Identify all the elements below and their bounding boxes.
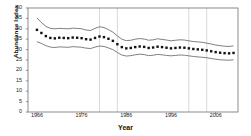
abundance-index-chart: 05101520253035404550 1966197619861996200… [0, 0, 251, 136]
data-point-marker [214, 51, 216, 53]
data-point-marker [165, 47, 167, 49]
x-axis-tick-label: 2006 [196, 113, 236, 118]
data-point-marker [210, 50, 212, 52]
data-point-marker [45, 35, 47, 37]
data-point-marker [192, 48, 194, 50]
data-point-marker [63, 37, 65, 39]
data-point-marker [130, 47, 132, 49]
data-point-marker [174, 47, 176, 49]
data-point-marker [85, 38, 87, 40]
data-point-marker [188, 47, 190, 49]
data-point-marker [147, 47, 149, 49]
data-point-marker [206, 49, 208, 51]
x-axis-tick-label: 1996 [151, 113, 191, 118]
data-point-marker [40, 32, 42, 34]
data-point-marker [134, 46, 136, 48]
data-point-marker [197, 48, 199, 50]
data-point-marker [183, 47, 185, 49]
x-axis-tick-labels: 19661976198619962006 [0, 113, 251, 123]
confidence-limit-line [37, 18, 234, 47]
x-axis-tick-label: 1976 [62, 113, 102, 118]
data-point-marker [116, 43, 118, 45]
y-axis-tick-label: 5 [6, 99, 22, 104]
data-point-marker [179, 46, 181, 48]
data-point-marker [89, 38, 91, 40]
data-point-marker [125, 47, 127, 49]
data-point-marker [143, 46, 145, 48]
x-axis-title: Year [0, 124, 251, 131]
data-point-marker [139, 45, 141, 47]
data-point-marker [152, 46, 154, 48]
data-point-marker [223, 52, 225, 54]
data-point-marker [67, 37, 69, 39]
data-point-marker [58, 37, 60, 39]
data-point-marker [201, 49, 203, 51]
x-axis-tick-label: 1986 [106, 113, 146, 118]
data-point-marker [121, 46, 123, 48]
data-point-marker [54, 37, 56, 39]
data-point-marker [49, 37, 51, 39]
data-point-marker [107, 38, 109, 40]
data-point-marker [219, 52, 221, 54]
data-point-marker [76, 37, 78, 39]
data-point-marker [80, 37, 82, 39]
data-point-marker [112, 40, 114, 42]
y-axis-title: Abundance Index [12, 0, 19, 80]
y-axis-tick-label: 10 [6, 88, 22, 93]
data-point-marker [36, 29, 38, 31]
data-point-marker [103, 36, 105, 38]
data-point-marker [170, 47, 172, 49]
data-point-marker [94, 37, 96, 39]
data-point-marker [232, 52, 234, 54]
data-point-marker [161, 46, 163, 48]
data-point-marker [156, 45, 158, 47]
data-point-marker [98, 35, 100, 37]
confidence-limit-line [37, 42, 234, 61]
data-point-marker [228, 52, 230, 54]
data-point-marker [71, 36, 73, 38]
x-axis-tick-label: 1966 [17, 113, 57, 118]
